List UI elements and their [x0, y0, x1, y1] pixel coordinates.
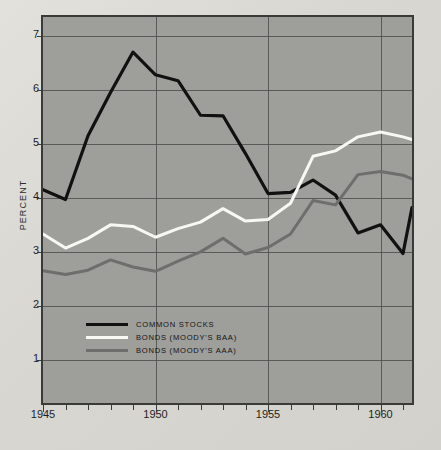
chart-page: PERCENT 7654321 1945195019551960 COMMON …	[0, 0, 441, 450]
y-tick-label: 5	[15, 136, 39, 148]
x-tick-mark-minor	[111, 405, 112, 410]
x-tick-mark-minor	[66, 405, 67, 410]
x-tick-mark-minor	[201, 405, 202, 410]
legend-label: BONDS (MOODY'S AAA)	[136, 346, 237, 355]
x-tick-mark-minor	[133, 405, 134, 410]
legend-swatch	[86, 336, 128, 339]
x-tick-mark-minor	[358, 405, 359, 410]
y-tick-label: 7	[15, 28, 39, 40]
y-tick-label: 2	[15, 298, 39, 310]
legend-label: COMMON STOCKS	[136, 320, 214, 329]
legend-swatch	[86, 323, 128, 326]
legend-item: BONDS (MOODY'S BAA)	[86, 331, 237, 344]
x-tick-mark-minor	[88, 405, 89, 410]
legend-item: BONDS (MOODY'S AAA)	[86, 344, 237, 357]
x-tick-mark-minor	[291, 405, 292, 410]
x-tick-mark	[156, 405, 157, 412]
series-line	[43, 52, 412, 253]
y-tick-label: 1	[15, 352, 39, 364]
legend-swatch	[86, 349, 128, 352]
x-tick-mark	[268, 405, 269, 412]
x-tick-mark-minor	[178, 405, 179, 410]
x-tick-mark-minor	[313, 405, 314, 410]
x-tick-mark-minor	[223, 405, 224, 410]
x-tick-mark-minor	[403, 405, 404, 410]
legend-label: BONDS (MOODY'S BAA)	[136, 333, 237, 342]
x-tick-mark	[381, 405, 382, 412]
y-tick-label: 3	[15, 244, 39, 256]
series-line	[43, 171, 412, 274]
x-tick-mark	[43, 405, 44, 412]
chart-legend: COMMON STOCKSBONDS (MOODY'S BAA)BONDS (M…	[86, 318, 237, 357]
y-tick-label: 6	[15, 82, 39, 94]
y-tick-label: 4	[15, 190, 39, 202]
x-tick-mark-minor	[246, 405, 247, 410]
x-tick-mark-minor	[336, 405, 337, 410]
legend-item: COMMON STOCKS	[86, 318, 237, 331]
y-axis-title: PERCENT	[18, 160, 28, 250]
